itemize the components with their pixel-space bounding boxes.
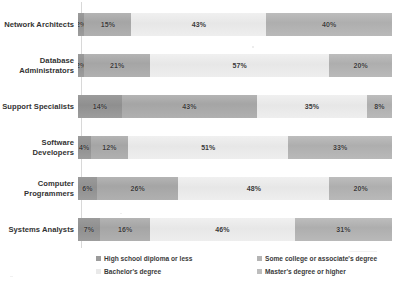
bar-segment: 8% — [367, 95, 392, 118]
segment-value-label: 33% — [333, 144, 347, 151]
bar-row: Software Developers4%12%51%33% — [0, 127, 402, 168]
bar-segment: 26% — [97, 177, 179, 200]
segment-value-label: 51% — [201, 144, 215, 151]
bar-segment: 16% — [100, 218, 150, 241]
legend-label: Some college or associate's degree — [265, 255, 377, 262]
segment-value-label: 43% — [182, 103, 196, 110]
segment-value-label: 16% — [118, 226, 132, 233]
legend-item[interactable]: Some college or associate's degree — [257, 253, 377, 264]
stacked-bar-chart: Network Architects2%15%43%40%Database Ad… — [0, 0, 402, 281]
category-label: Systems Analysts — [0, 225, 78, 235]
segment-value-label: 7% — [84, 226, 94, 233]
bar-segment: 43% — [131, 13, 266, 36]
segment-value-label: 35% — [305, 103, 319, 110]
segment-value-label: 4% — [79, 144, 89, 151]
legend-swatch-icon — [96, 269, 101, 274]
bar-row: Support Specialists14%43%35%8% — [0, 86, 402, 127]
bar-row: Systems Analysts7%16%46%31% — [0, 209, 402, 250]
stacked-bar: 2%15%43%40% — [78, 13, 392, 36]
segment-value-label: 20% — [353, 185, 367, 192]
bar-segment: 21% — [84, 54, 150, 77]
bar-row: Network Architects2%15%43%40% — [0, 4, 402, 45]
bar-segment: 20% — [329, 54, 392, 77]
bar-segment: 20% — [329, 177, 392, 200]
stacked-bar: 4%12%51%33% — [78, 136, 392, 159]
segment-value-label: 48% — [247, 185, 261, 192]
bar-segment: 14% — [78, 95, 122, 118]
bar-segment: 46% — [150, 218, 294, 241]
bar-segment: 35% — [257, 95, 367, 118]
legend-label: Master's degree or higher — [265, 268, 346, 275]
legend-label: Bachelor's degree — [104, 268, 161, 275]
stacked-bar: 2%21%57%20% — [78, 54, 392, 77]
segment-value-label: 40% — [322, 21, 336, 28]
legend-swatch-icon — [257, 256, 262, 261]
bar-segment: 48% — [178, 177, 329, 200]
bar-segment: 7% — [78, 218, 100, 241]
bar-segment: 40% — [266, 13, 392, 36]
bar-segment: 43% — [122, 95, 257, 118]
segment-value-label: 57% — [233, 62, 247, 69]
category-label: Computer Programmers — [0, 179, 78, 198]
bar-segment: 57% — [150, 54, 329, 77]
segment-value-label: 12% — [102, 144, 116, 151]
legend-label: High school diploma or less — [104, 255, 192, 262]
legend-item[interactable]: Master's degree or higher — [257, 266, 346, 277]
segment-value-label: 26% — [130, 185, 144, 192]
stacked-bar: 7%16%46%31% — [78, 218, 392, 241]
plot-area: Network Architects2%15%43%40%Database Ad… — [0, 2, 402, 248]
segment-value-label: 14% — [93, 103, 107, 110]
segment-value-label: 20% — [353, 62, 367, 69]
stacked-bar: 14%43%35%8% — [78, 95, 392, 118]
bar-row: Computer Programmers6%26%48%20% — [0, 168, 402, 209]
bar-segment: 6% — [78, 177, 97, 200]
category-label: Network Architects — [0, 20, 78, 30]
segment-value-label: 21% — [110, 62, 124, 69]
bar-row: Database Administrators2%21%57%20% — [0, 45, 402, 86]
bar-segment: 33% — [288, 136, 392, 159]
legend-item[interactable]: High school diploma or less — [96, 253, 192, 264]
legend-swatch-icon — [96, 256, 101, 261]
stacked-bar: 6%26%48%20% — [78, 177, 392, 200]
bar-segment: 12% — [91, 136, 129, 159]
bar-segment: 15% — [84, 13, 131, 36]
category-label: Software Developers — [0, 138, 78, 157]
bar-segment: 31% — [295, 218, 392, 241]
segment-value-label: 43% — [192, 21, 206, 28]
segment-value-label: 6% — [82, 185, 92, 192]
segment-value-label: 15% — [101, 21, 115, 28]
segment-value-label: 31% — [336, 226, 350, 233]
legend-swatch-icon — [257, 269, 262, 274]
bar-segment: 4% — [78, 136, 91, 159]
category-label: Database Administrators — [0, 56, 78, 75]
segment-value-label: 46% — [215, 226, 229, 233]
chart-legend: High school diploma or lessSome college … — [0, 250, 402, 281]
legend-item[interactable]: Bachelor's degree — [96, 266, 161, 277]
segment-value-label: 8% — [374, 103, 384, 110]
bar-segment: 51% — [128, 136, 288, 159]
category-label: Support Specialists — [0, 102, 78, 112]
